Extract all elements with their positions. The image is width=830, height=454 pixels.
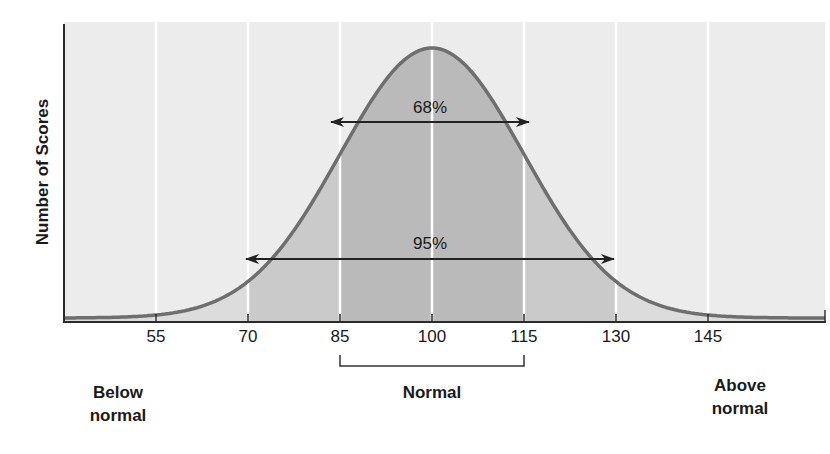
x-tick-label-130: 130 bbox=[591, 327, 641, 347]
y-axis-label: Number of Scores bbox=[33, 72, 55, 272]
category-below-normal: Below normal bbox=[78, 381, 158, 427]
x-tick-label-115: 115 bbox=[499, 327, 549, 347]
category-below-line2: normal bbox=[78, 404, 158, 427]
x-tick-label-85: 85 bbox=[315, 327, 365, 347]
x-tick-label-70: 70 bbox=[223, 327, 273, 347]
category-above-line2: normal bbox=[700, 397, 780, 420]
category-above-normal: Above normal bbox=[700, 374, 780, 420]
normal-range-bracket bbox=[340, 355, 524, 366]
category-below-line1: Below bbox=[78, 381, 158, 404]
x-tick-label-100: 100 bbox=[407, 327, 457, 347]
x-tick-label-145: 145 bbox=[683, 327, 733, 347]
category-normal: Normal bbox=[392, 381, 472, 404]
category-above-line1: Above bbox=[700, 374, 780, 397]
x-tick-label-55: 55 bbox=[131, 327, 181, 347]
label-68-percent: 68% bbox=[400, 98, 460, 118]
label-95-percent: 95% bbox=[400, 234, 460, 254]
